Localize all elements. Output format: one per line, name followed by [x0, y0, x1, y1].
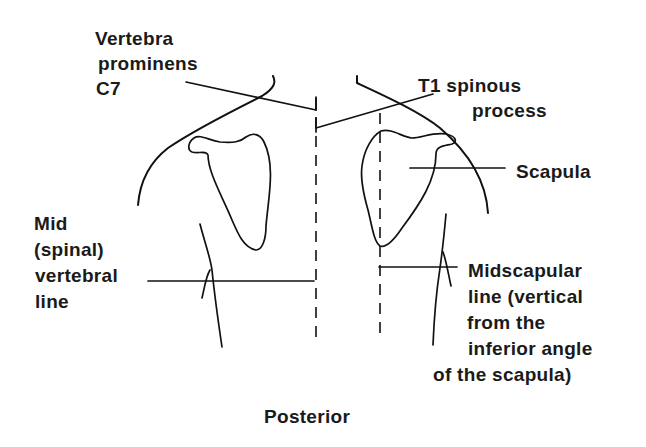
- label-scapula: Scapula: [516, 161, 591, 182]
- left-trunk-fold: [202, 270, 210, 298]
- label-vertebra-prominens: Vertebra prominens C7: [95, 28, 203, 99]
- posterior-thorax-diagram: Vertebra prominens C7 T1 spinous process…: [0, 0, 646, 447]
- label-midscapular-line: Midscapular line (vertical from the infe…: [433, 260, 598, 385]
- right-trunk-line: [433, 214, 446, 345]
- leader-vertebra-prominens: [186, 82, 316, 110]
- left-shoulder-outline: [138, 76, 274, 205]
- label-mid-spinal-vertebral-line: Mid (spinal) vertebral line: [34, 213, 124, 312]
- right-scapula: [361, 130, 455, 246]
- label-t1-spinous-process: T1 spinous process: [418, 75, 547, 121]
- figure-caption: Posterior: [264, 406, 350, 427]
- right-trunk-fold: [443, 252, 451, 286]
- left-scapula: [189, 134, 271, 250]
- left-trunk-line: [200, 224, 222, 347]
